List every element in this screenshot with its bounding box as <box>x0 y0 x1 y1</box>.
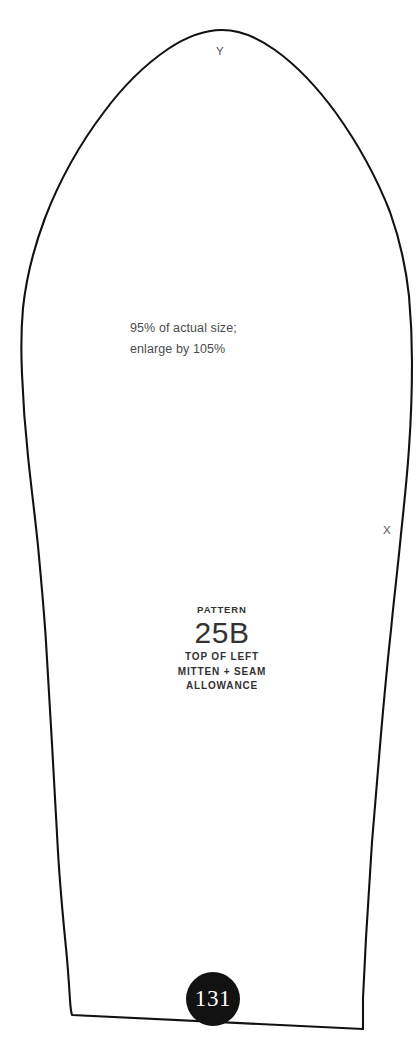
pattern-page: 95% of actual size; enlarge by 105% Y X … <box>0 0 416 1054</box>
pattern-description-line-1: TOP OF LEFT <box>0 650 416 665</box>
scale-note-line-2: enlarge by 105% <box>130 339 237 360</box>
pattern-label-block: PATTERN 25B TOP OF LEFT MITTEN + SEAM AL… <box>0 604 416 694</box>
notch-marker-y: Y <box>216 45 224 57</box>
pattern-number: 25B <box>0 617 416 648</box>
page-number-text: 131 <box>195 987 231 1011</box>
pattern-description-line-3: ALLOWANCE <box>0 679 416 694</box>
scale-note: 95% of actual size; enlarge by 105% <box>130 318 237 360</box>
pattern-kicker: PATTERN <box>0 604 416 616</box>
page-number-badge: 131 <box>186 972 240 1026</box>
notch-marker-x: X <box>383 524 391 536</box>
pattern-description-line-2: MITTEN + SEAM <box>0 665 416 680</box>
scale-note-line-1: 95% of actual size; <box>130 318 237 339</box>
pattern-piece-outline <box>0 0 416 1054</box>
pattern-outline-path <box>21 30 363 1029</box>
pattern-description: TOP OF LEFT MITTEN + SEAM ALLOWANCE <box>0 650 416 694</box>
